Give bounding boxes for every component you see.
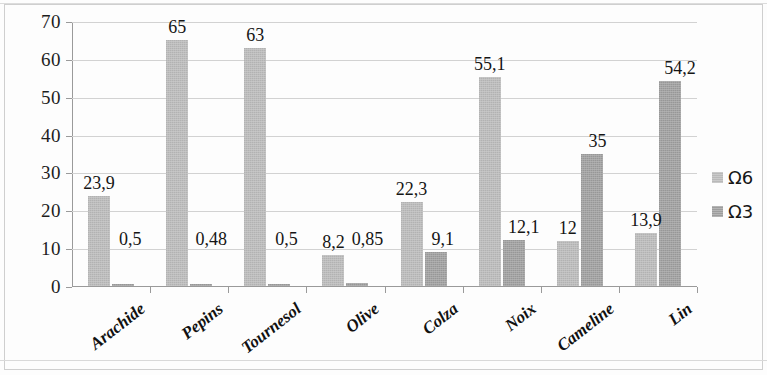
x-axis-category-label: Tournesol [238,299,306,358]
bar [503,240,525,286]
data-label: 23,9 [83,173,115,194]
x-axis-tick [619,287,620,293]
data-label: 0,5 [119,229,142,250]
chart-screenshot: 010203040506070 23,90,5650,48630,58,20,8… [0,0,767,375]
chart-legend: Ω6Ω3 [712,160,753,228]
bar [244,48,266,287]
data-label: 8,2 [322,232,345,253]
plot-area: 010203040506070 23,90,5650,48630,58,20,8… [72,22,697,287]
legend-label: Ω3 [728,201,753,222]
x-axis-category-label: Noix [501,299,540,336]
x-axis-tick [385,287,386,293]
bar [268,284,290,286]
x-axis-category-label: Colza [418,299,462,339]
legend-item[interactable]: Ω6 [712,160,753,194]
data-label: 0,85 [352,229,384,250]
y-axis-tick-label: 70 [41,11,61,33]
y-axis-tick-label: 30 [41,162,61,184]
bar [581,154,603,287]
data-label: 35 [589,131,607,152]
x-axis-tick [228,287,229,293]
bars-layer [72,22,697,287]
data-label: 22,3 [396,179,428,200]
bar [659,81,681,286]
bar [166,40,188,286]
data-label: 65 [168,17,186,38]
y-axis-tick-label: 0 [51,276,61,298]
page-bottom-rule [0,360,767,361]
bar [401,202,423,286]
data-label: 9,1 [432,229,455,250]
data-label: 54,2 [664,58,696,79]
data-label: 13,9 [630,210,662,231]
data-label: 63 [246,25,264,46]
legend-swatch-icon [712,206,723,217]
x-axis-category-label: Lin [665,299,697,330]
x-axis-tick [463,287,464,293]
x-axis-category-label: Olive [342,299,383,337]
y-axis-tick-label: 10 [41,238,61,260]
x-axis-category-label: Cameline [553,299,618,356]
legend-item[interactable]: Ω3 [712,194,753,228]
data-label: 12 [559,218,577,239]
bar [557,241,579,286]
x-axis-category-label: Pepins [178,299,228,344]
y-axis-tick-label: 60 [41,49,61,71]
bar [112,284,134,286]
data-label: 0,5 [275,229,298,250]
x-axis-tick [541,287,542,293]
y-axis-tick-label: 40 [41,125,61,147]
bar [425,252,447,286]
bar [346,283,368,286]
bar [479,77,501,286]
bar [635,233,657,286]
x-axis-tick [697,287,698,293]
page-top-rule [0,3,767,4]
legend-label: Ω6 [728,167,753,188]
legend-swatch-icon [712,172,723,183]
x-axis-tick [306,287,307,293]
bar [190,284,212,286]
data-label: 0,48 [196,229,228,250]
y-axis-tick-label: 50 [41,87,61,109]
x-axis-category-label: Arachide [86,299,149,354]
y-axis-tick-label: 20 [41,200,61,222]
y-axis-tick [66,287,72,288]
x-axis-tick [150,287,151,293]
bar [322,255,344,286]
data-label: 12,1 [508,217,539,238]
bar [88,196,110,286]
data-label: 55,1 [474,54,506,75]
